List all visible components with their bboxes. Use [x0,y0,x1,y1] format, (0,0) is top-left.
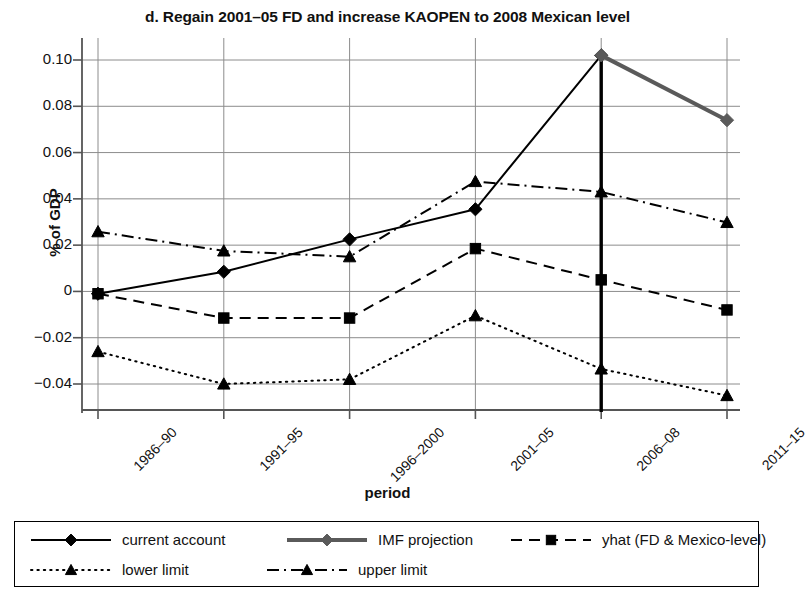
data-point-marker-square [596,275,606,285]
legend-label: IMF projection [378,531,473,548]
plot-area [0,0,775,505]
legend-item[interactable]: yhat (FD & Mexico-level) [509,525,766,554]
y-tick-label: −0.04 [8,374,72,391]
data-point-marker-square [470,243,480,253]
data-point-marker-triangle [92,345,104,356]
data-point-marker-square [344,313,354,323]
data-point-marker-diamond [343,233,356,246]
legend-swatch [265,561,349,579]
series-line-2 [98,249,727,318]
data-point-marker-triangle [92,226,104,237]
data-point-marker-triangle [469,310,481,321]
data-point-marker-diamond [65,534,77,546]
data-point-marker-square [722,305,732,315]
data-point-marker-triangle [301,564,312,574]
legend-swatch [509,531,593,549]
legend-item[interactable]: lower limit [29,555,189,584]
data-point-marker-square [546,535,555,544]
data-point-marker-triangle [595,363,607,374]
data-point-marker-triangle [469,175,481,186]
legend-item[interactable]: IMF projection [285,525,473,554]
series-line-1 [601,55,727,120]
data-point-marker-triangle [721,389,733,400]
y-tick-label: 0.10 [8,50,72,67]
data-point-marker-diamond [217,265,230,278]
legend-swatch [29,561,113,579]
legend-item[interactable]: upper limit [265,555,427,584]
legend-label: current account [122,531,225,548]
y-tick-label: 0 [8,281,72,298]
y-tick-label: 0.06 [8,143,72,160]
y-tick-label: 0.08 [8,96,72,113]
legend-swatch [29,531,113,549]
legend-item[interactable]: current account [29,525,225,554]
legend-label: yhat (FD & Mexico-level) [602,531,766,548]
y-tick-label: −0.02 [8,328,72,345]
data-point-marker-diamond [321,534,333,546]
y-tick-label: 0.04 [8,189,72,206]
data-point-marker-triangle [65,564,76,574]
plot-svg [0,0,775,505]
y-axis-label: % of GDP [46,163,63,283]
y-tick-label: 0.02 [8,235,72,252]
data-point-marker-square [219,313,229,323]
legend-row-bottom: lower limitupper limit [15,555,760,584]
legend-row-top: current accountIMF projectionyhat (FD & … [15,525,760,554]
x-axis-label: period [0,484,775,501]
data-point-marker-square [93,289,103,299]
legend-label: upper limit [358,561,427,578]
chart-legend: current accountIMF projectionyhat (FD & … [14,521,759,587]
legend-label: lower limit [122,561,189,578]
legend-swatch [285,531,369,549]
